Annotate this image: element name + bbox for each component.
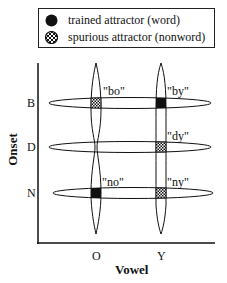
spurious-attractor-bo (91, 98, 101, 108)
x-tick-o: O (92, 250, 101, 262)
attractor-label-ny: "ny" (167, 176, 189, 188)
filled-circle-icon (45, 14, 58, 27)
spurious-attractor-ny (156, 188, 166, 198)
y-tick-n: N (27, 187, 36, 199)
onset-basin-n (53, 188, 213, 199)
attractor-label-dy: "dy" (167, 130, 189, 142)
legend: trained attractor (word) spurious attrac… (38, 8, 215, 48)
y-tick-d: D (27, 141, 36, 153)
legend-item-trained: trained attractor (word) (45, 12, 180, 28)
y-axis-label: Onset (6, 133, 19, 166)
attractor-label-by: "by" (167, 85, 189, 97)
attractor-label-no: "no" (102, 176, 124, 188)
legend-item-spurious: spurious attractor (nonword) (45, 29, 205, 45)
y-tick-b: B (27, 97, 35, 109)
x-axis-label: Vowel (115, 263, 148, 276)
attractor-label-bo: "bo" (103, 85, 125, 97)
onset-basin-b (49, 98, 211, 109)
checkered-circle-icon (45, 31, 58, 44)
trained-attractor-no (91, 188, 101, 198)
vowel-basin-o (91, 63, 101, 234)
spurious-attractor-dy (156, 142, 166, 152)
legend-label: spurious attractor (nonword) (68, 30, 205, 45)
trained-attractor-by (156, 98, 166, 108)
x-tick-y: Y (157, 250, 166, 262)
legend-label: trained attractor (word) (68, 13, 180, 28)
onset-basin-d (49, 142, 211, 153)
